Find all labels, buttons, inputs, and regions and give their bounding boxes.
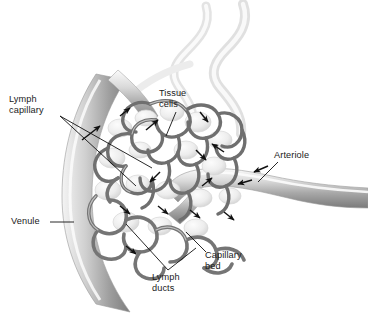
label-arteriole: Arteriole <box>274 150 309 161</box>
leader-lymph-ducts-b <box>168 248 196 270</box>
label-lymph-capillary: Lymph capillary <box>9 94 44 116</box>
label-lymph-ducts: Lymph ducts <box>152 272 180 294</box>
label-capillary-bed: Capillary bed <box>205 250 242 272</box>
label-tissue-cells: Tissue cells <box>159 88 186 110</box>
lymphatic-capillary-diagram <box>0 0 368 328</box>
label-venule: Venule <box>11 216 40 227</box>
